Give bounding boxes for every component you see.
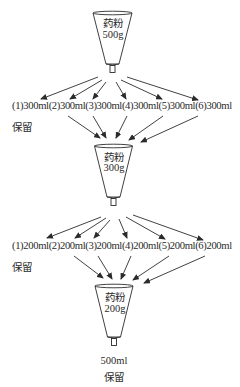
- funnel1-label-name: 药粉: [93, 15, 133, 30]
- stage1-keep-label: 保留: [12, 119, 32, 134]
- stage2-keep-label: 保留: [12, 259, 32, 274]
- final-output-volume: 500ml: [94, 355, 134, 366]
- funnel2-label-weight: 300g: [94, 162, 134, 173]
- arrows-stage1-in: [68, 116, 198, 142]
- funnel1-label-weight: 500g: [93, 29, 133, 40]
- arrows-stage2-out: [47, 215, 203, 240]
- arrows-stage1-out: [41, 77, 198, 100]
- final-keep-label: 保留: [94, 369, 134, 384]
- stage2-fractions: (1)200ml(2)200ml(3)200ml(4)200ml(5)200ml…: [12, 240, 232, 251]
- funnel3-label-name: 药粉: [95, 289, 135, 304]
- arrows-stage2-in: [74, 256, 205, 283]
- percolation-flow-diagram: [0, 0, 240, 387]
- funnel3-label-weight: 200g: [95, 303, 135, 314]
- stage1-fractions: (1)300ml(2)300ml(3)300ml(4)300ml(5)300ml…: [12, 100, 232, 111]
